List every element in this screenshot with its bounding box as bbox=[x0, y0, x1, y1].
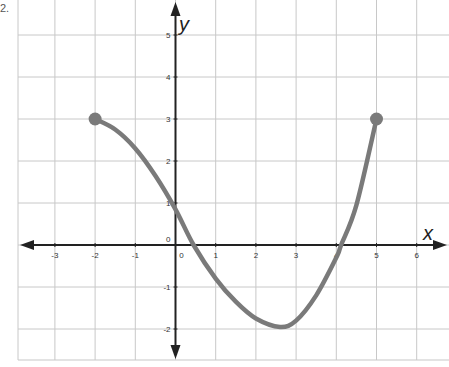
x-tick-label: 6 bbox=[414, 251, 419, 260]
y-tick-label: 3 bbox=[166, 115, 171, 124]
y-tick-label: 2 bbox=[166, 157, 171, 166]
y-tick-label: 4 bbox=[166, 73, 171, 82]
x-tick-label: -1 bbox=[132, 251, 140, 260]
x-axis-left-arrow-icon bbox=[20, 240, 34, 250]
y-tick-label: 5 bbox=[166, 31, 171, 40]
y-axis-label: y bbox=[177, 13, 190, 35]
x-tick-label: 0 bbox=[179, 251, 184, 260]
y-tick-label: -1 bbox=[163, 283, 171, 292]
endpoint-closed-dot-icon bbox=[370, 113, 383, 126]
x-tick-label: 5 bbox=[374, 251, 379, 260]
axes: xy bbox=[20, 2, 447, 359]
x-axis-label: x bbox=[422, 222, 434, 244]
graph-figure: 2. xy -3-2-10123456-2-1012345 bbox=[0, 0, 449, 367]
curve-path bbox=[95, 119, 376, 327]
x-tick-label: 3 bbox=[294, 251, 299, 260]
grid-lines bbox=[18, 0, 449, 360]
endpoint-closed-dot-icon bbox=[89, 113, 102, 126]
function-curve bbox=[89, 113, 383, 327]
x-tick-label: -2 bbox=[92, 251, 100, 260]
x-tick-label: 1 bbox=[213, 251, 218, 260]
x-tick-label: -3 bbox=[51, 251, 59, 260]
y-axis-down-arrow-icon bbox=[171, 345, 181, 359]
y-tick-label: 0 bbox=[166, 235, 171, 244]
x-axis-right-arrow-icon bbox=[433, 240, 447, 250]
x-tick-label: 2 bbox=[254, 251, 259, 260]
problem-number: 2. bbox=[0, 2, 9, 14]
function-graph: xy -3-2-10123456-2-1012345 bbox=[0, 0, 449, 367]
y-tick-label: -2 bbox=[163, 325, 171, 334]
